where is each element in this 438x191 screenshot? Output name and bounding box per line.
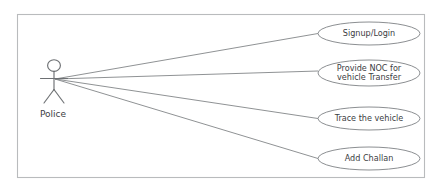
actor-leg-left-icon [44,90,54,104]
association-lines-group [55,34,318,159]
use-case-signup-login[interactable]: Signup/Login [318,22,420,45]
association-line-add-challan[interactable] [55,79,318,159]
use-case-label-trace-vehicle: Trace the vehicle [334,113,404,123]
use-case-trace-vehicle[interactable]: Trace the vehicle [318,107,420,130]
use-case-label-provide-noc-line1: Provide NOC for [337,63,402,73]
use-cases-group: Signup/Login Provide NOC for vehicle Tra… [318,22,420,170]
actor-head-icon [48,60,61,72]
actor-police[interactable]: Police [40,60,68,119]
use-case-provide-noc[interactable]: Provide NOC for vehicle Transfer [318,60,420,86]
use-case-diagram-svg: Police Signup/Login Provide NOC for vehi… [0,0,438,191]
use-case-label-provide-noc-line2: vehicle Transfer [337,72,402,82]
actor-label-police: Police [40,109,67,119]
association-line-trace-vehicle[interactable] [55,79,318,119]
use-case-diagram-canvas: Police Signup/Login Provide NOC for vehi… [0,0,438,191]
use-case-label-signup-login: Signup/Login [343,28,395,38]
use-case-add-challan[interactable]: Add Challan [318,147,420,170]
use-case-label-add-challan: Add Challan [345,153,394,163]
actor-leg-right-icon [54,90,64,104]
